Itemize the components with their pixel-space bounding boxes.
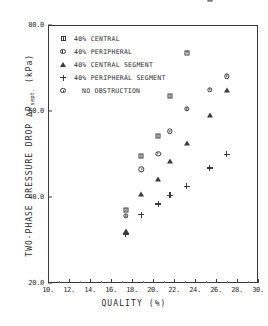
x-tick-label: 28.	[231, 286, 242, 294]
x-tick-label: 26.	[210, 286, 221, 294]
legend-item: 40% CENTRAL SEGMENT	[56, 58, 206, 71]
legend-item: 40% PERIPHERAL	[56, 45, 206, 58]
x-tick-mark	[111, 279, 112, 283]
data-point	[207, 165, 213, 171]
x-tick-minor	[101, 281, 102, 283]
x-tick-label: 18.	[126, 286, 137, 294]
y-tick-label: 40.0	[0, 193, 44, 201]
x-tick-mark	[153, 279, 154, 283]
x-tick-mark	[174, 279, 175, 283]
y-tick-label: 60.0	[0, 107, 44, 115]
x-tick-mark	[237, 279, 238, 283]
x-tick-minor	[185, 281, 186, 283]
x-tick-label: 20.	[147, 286, 158, 294]
y-axis-unit: (kPa)	[25, 54, 34, 83]
y-tick-mark	[48, 197, 52, 198]
triangle-icon	[56, 62, 70, 67]
x-tick-minor	[80, 281, 81, 283]
square-icon	[56, 36, 70, 41]
circle-dot-icon-glyph	[60, 88, 65, 93]
legend-item: NO OBSTRUCTION	[56, 84, 206, 97]
y-tick-label: 20.0	[0, 279, 44, 287]
data-point	[167, 158, 173, 163]
y-tick-mark	[48, 111, 52, 112]
x-tick-mark	[48, 279, 49, 283]
x-tick-mark	[195, 279, 196, 283]
legend-label: 40% PERIPHERAL	[70, 48, 132, 56]
x-tick-minor	[59, 281, 60, 283]
x-tick-label: 10.	[42, 286, 53, 294]
data-point	[184, 183, 190, 189]
x-tick-minor	[227, 281, 228, 283]
scatter-chart-figure: 80.060.040.020.0 10.12.14.16.18.20.22.24…	[0, 0, 268, 326]
data-point	[156, 133, 161, 138]
triangle-icon-glyph	[60, 62, 66, 67]
plus-icon-glyph	[60, 75, 66, 81]
data-point	[184, 140, 190, 145]
x-tick-label: 30.	[252, 286, 263, 294]
data-point	[155, 201, 161, 207]
data-point	[155, 176, 161, 181]
x-tick-label: 12.	[63, 286, 74, 294]
x-tick-minor	[164, 281, 165, 283]
x-axis-title: QUALITY (%)	[0, 299, 268, 308]
chart-legend: 40% CENTRAL40% PERIPHERAL40% CENTRAL SEG…	[53, 28, 209, 100]
circle-icon	[56, 49, 70, 54]
square-icon-glyph	[61, 36, 66, 41]
legend-label: 40% CENTRAL	[70, 35, 120, 43]
x-tick-label: 24.	[189, 286, 200, 294]
x-tick-mark	[216, 279, 217, 283]
circle-icon-glyph	[60, 49, 65, 54]
legend-item: 40% PERIPHERAL SEGMENT	[56, 71, 206, 84]
data-point	[138, 192, 144, 197]
legend-label: 40% CENTRAL SEGMENT	[70, 61, 153, 69]
x-tick-minor	[206, 281, 207, 283]
x-tick-mark	[90, 279, 91, 283]
legend-label: 40% PERIPHERAL SEGMENT	[70, 74, 166, 82]
y-axis-title-subscript: sept.	[29, 89, 35, 106]
y-axis-title: TWO-PHASE PRESSURE DROP ΔPsept. (kPa)	[25, 21, 36, 289]
data-point	[207, 112, 213, 117]
data-point	[138, 212, 144, 218]
x-tick-label: 16.	[105, 286, 116, 294]
x-tick-label: 14.	[84, 286, 95, 294]
plus-icon	[56, 75, 70, 81]
x-tick-mark	[69, 279, 70, 283]
legend-item: 40% CENTRAL	[56, 32, 206, 45]
x-tick-minor	[248, 281, 249, 283]
x-tick-minor	[143, 281, 144, 283]
data-point	[167, 192, 173, 198]
y-tick-mark	[48, 25, 52, 26]
x-tick-mark	[132, 279, 133, 283]
data-point	[123, 207, 128, 212]
x-tick-minor	[122, 281, 123, 283]
data-point	[224, 88, 230, 93]
circle-dot-icon	[56, 88, 70, 93]
y-axis-title-main: TWO-PHASE PRESSURE DROP ΔP	[25, 105, 34, 256]
x-tick-label: 22.	[168, 286, 179, 294]
legend-label: NO OBSTRUCTION	[70, 87, 140, 95]
data-point	[123, 231, 129, 237]
data-point	[207, 0, 212, 2]
data-point	[224, 151, 230, 157]
data-point	[139, 154, 144, 159]
x-tick-mark	[258, 279, 259, 283]
y-tick-label: 80.0	[0, 21, 44, 29]
